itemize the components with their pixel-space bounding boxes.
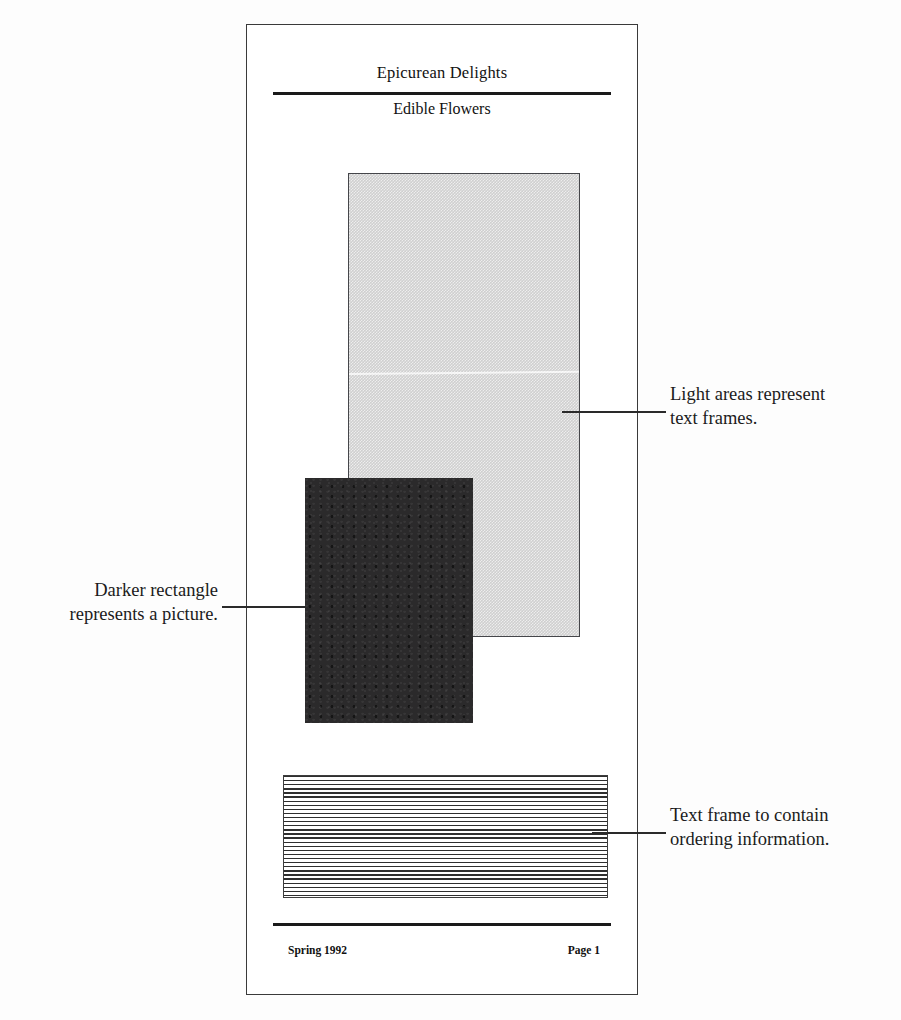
annotation-text-frames-line2: text frames. xyxy=(670,406,885,430)
annotation-text-frames-line1: Light areas represent xyxy=(670,382,885,406)
document-subtitle: Edible Flowers xyxy=(246,100,638,118)
leader-line-picture xyxy=(222,606,306,608)
leader-line-text-frames xyxy=(562,411,666,413)
dark-picture-frame xyxy=(305,478,473,723)
annotation-ordering-line2: ordering information. xyxy=(670,827,885,851)
leader-line-ordering xyxy=(592,832,666,834)
annotation-ordering: Text frame to contain ordering informati… xyxy=(670,803,885,852)
ruled-ordering-frame xyxy=(283,775,608,898)
footer-page-number: Page 1 xyxy=(520,944,600,956)
annotation-text-frames: Light areas represent text frames. xyxy=(670,382,885,431)
footer-rule xyxy=(273,923,611,926)
annotation-picture-line2: represents a picture. xyxy=(40,602,218,626)
annotation-picture: Darker rectangle represents a picture. xyxy=(40,578,218,627)
footer-issue-label: Spring 1992 xyxy=(288,944,347,956)
annotation-picture-line1: Darker rectangle xyxy=(40,578,218,602)
document-title: Epicurean Delights xyxy=(246,63,638,83)
header-rule xyxy=(273,92,611,95)
annotation-ordering-line1: Text frame to contain xyxy=(670,803,885,827)
page-layout-diagram: Epicurean Delights Edible Flowers Spring… xyxy=(0,0,901,1020)
